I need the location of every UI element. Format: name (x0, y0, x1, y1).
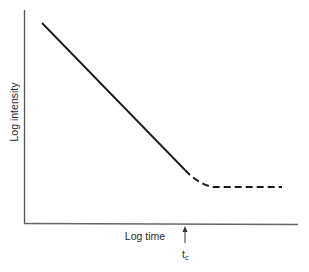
tc-marker-label: tc (182, 248, 189, 262)
dashed-plateau-line (185, 170, 282, 187)
x-axis-label: Log time (125, 230, 165, 242)
tc-marker-sub: c (185, 253, 189, 262)
solid-decay-line (42, 23, 185, 170)
y-axis-label: Log intensity (8, 82, 20, 142)
chart: Log time Log intensity tc (0, 0, 309, 272)
x-axis (24, 224, 298, 225)
tc-arrow-head-icon (183, 226, 188, 232)
